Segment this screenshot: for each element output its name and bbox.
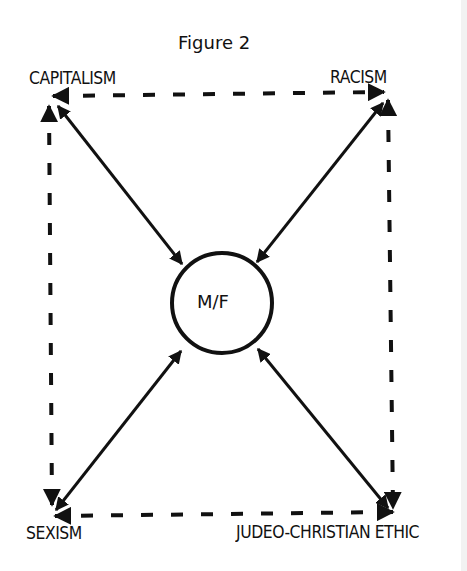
edge-racism-center <box>257 103 383 262</box>
edge-capitalism-center <box>58 106 182 264</box>
center-node-label: M/F <box>197 291 229 312</box>
edge-sexism-center <box>56 351 181 510</box>
edge-racism-judeo <box>388 100 393 508</box>
edge-judeo-sexism <box>55 512 393 516</box>
edge-sexism-capitalism <box>49 106 52 505</box>
edge-judeo-center <box>258 349 388 508</box>
edge-capitalism-racism <box>53 92 384 96</box>
diagram-canvas <box>0 0 467 571</box>
